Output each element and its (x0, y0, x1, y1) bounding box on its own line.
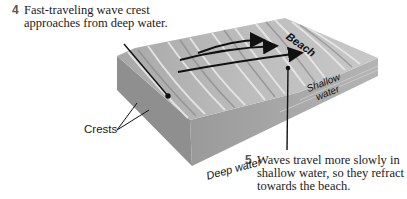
caption-text: Waves travel more slowly in shallow wate… (257, 153, 404, 193)
crests-label: Crests (84, 123, 117, 135)
caption-step-4: 4 Fast-traveling wave crest approaches f… (24, 4, 174, 30)
caption-text: Fast-traveling wave crest approaches fro… (24, 3, 168, 30)
step-number: 4 (12, 4, 19, 17)
caption-step-5: 5 Waves travel more slowly in shallow wa… (257, 154, 407, 193)
